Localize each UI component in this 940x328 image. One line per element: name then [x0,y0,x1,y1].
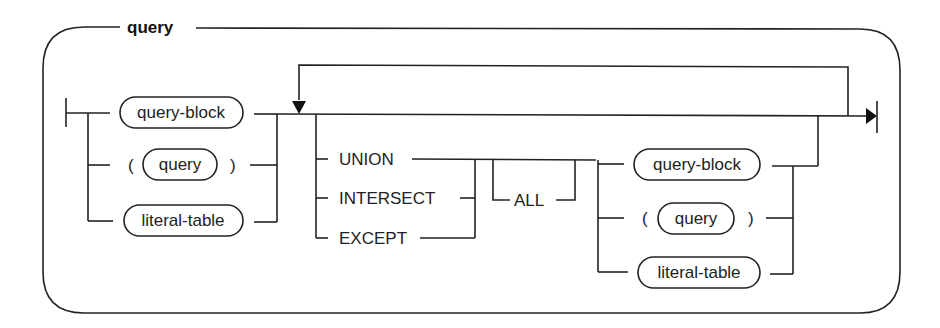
query-label-2: query [675,209,718,228]
intersect-keyword: INTERSECT [339,189,435,208]
union-keyword: UNION [339,150,394,169]
close-paren: ) [230,156,236,175]
close-paren-2: ) [748,209,754,228]
loop-arrow-icon [292,101,306,114]
repeat-loop [299,65,848,116]
except-keyword: EXCEPT [339,229,407,248]
all-keyword: ALL [514,191,544,210]
literal-table-label: literal-table [141,211,224,230]
railroad-diagram: query query-block ( query ) literal-tabl… [0,0,940,328]
query-block-label-2: query-block [653,155,741,174]
query-label: query [159,155,202,174]
end-arrow-icon [866,108,877,124]
open-paren: ( [128,156,134,175]
diagram-title: query [127,18,174,37]
query-block-label: query-block [137,103,225,122]
literal-table-label-2: literal-table [657,263,740,282]
open-paren-2: ( [642,209,648,228]
